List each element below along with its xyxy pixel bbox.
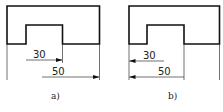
arrowhead-left-icon bbox=[129, 75, 136, 79]
dimension-value-50-a: 50 bbox=[52, 66, 65, 77]
part-outline-a bbox=[7, 6, 100, 44]
figure-caption-b: b) bbox=[168, 91, 177, 101]
figure-a: 30 50 a) bbox=[7, 6, 100, 101]
dimensioning-diagram: 30 50 a) 30 50 b) bbox=[0, 0, 223, 112]
figure-b: 30 50 b) bbox=[129, 6, 220, 101]
part-outline-b bbox=[129, 6, 220, 44]
dimension-value-30-a: 30 bbox=[33, 49, 46, 60]
arrowhead-right-icon bbox=[93, 75, 100, 79]
dimension-value-30-b: 30 bbox=[143, 50, 156, 61]
arrowhead-right-icon bbox=[56, 58, 63, 62]
figure-caption-a: a) bbox=[51, 91, 60, 101]
arrowhead-left-icon bbox=[129, 59, 136, 63]
dimension-value-50-b: 50 bbox=[158, 66, 171, 77]
